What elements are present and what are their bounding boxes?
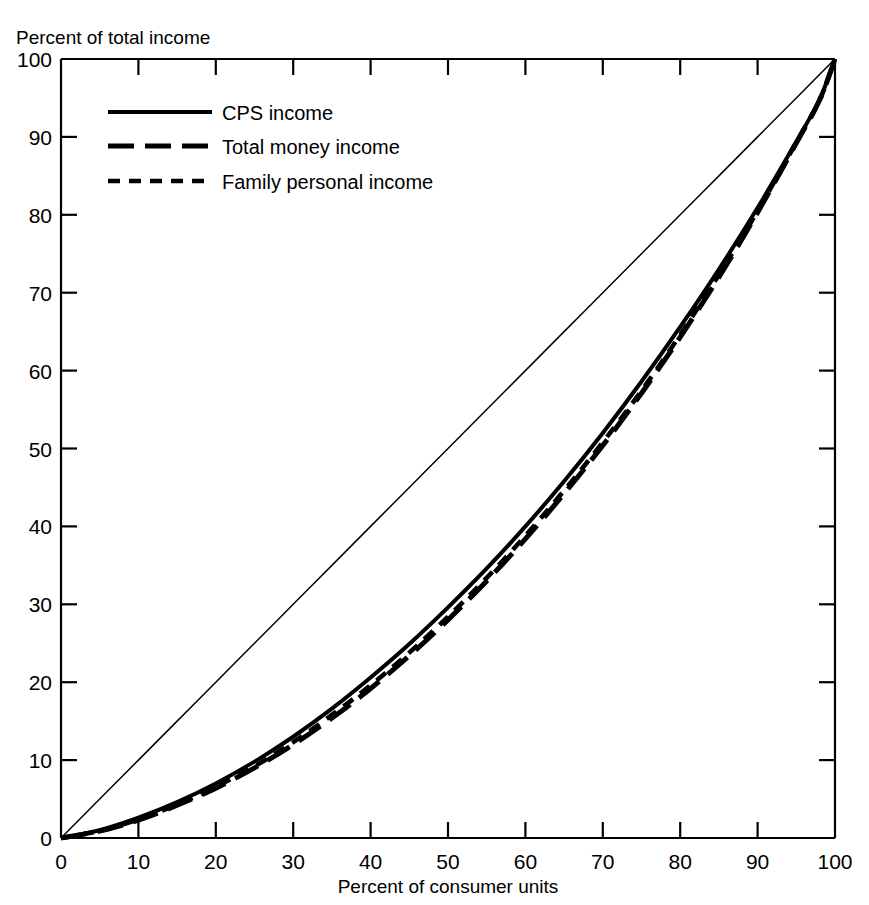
y-tick-label: 60	[29, 360, 52, 383]
legend-label-total-money-income: Total money income	[222, 136, 400, 158]
y-tick-label: 70	[29, 282, 52, 305]
x-tick-label: 50	[436, 850, 459, 873]
legend-label-cps-income: CPS income	[222, 102, 333, 124]
x-tick-label: 60	[514, 850, 537, 873]
y-tick-label: 10	[29, 749, 52, 772]
x-tick-label: 0	[55, 850, 67, 873]
y-tick-label: 80	[29, 204, 52, 227]
y-tick-label: 20	[29, 671, 52, 694]
x-axis-title: Percent of consumer units	[338, 876, 559, 897]
x-tick-label: 80	[669, 850, 692, 873]
y-tick-label: 40	[29, 515, 52, 538]
y-tick-label: 0	[40, 827, 52, 850]
x-tick-label: 90	[746, 850, 769, 873]
lorenz-curve-chart: Percent of total income 0102030405060708…	[0, 0, 869, 905]
legend-label-family-personal-income: Family personal income	[222, 171, 433, 193]
y-tick-label: 30	[29, 593, 52, 616]
x-tick-label: 40	[359, 850, 382, 873]
y-tick-label: 90	[29, 126, 52, 149]
x-tick-label: 20	[204, 850, 227, 873]
x-tick-label: 10	[127, 850, 150, 873]
y-tick-label: 50	[29, 438, 52, 461]
x-tick-label: 70	[591, 850, 614, 873]
x-tick-label: 100	[817, 850, 852, 873]
y-tick-label: 100	[17, 48, 52, 71]
x-tick-label: 30	[282, 850, 305, 873]
chart-page: Percent of total income 0102030405060708…	[0, 0, 869, 905]
y-axis-title: Percent of total income	[16, 27, 210, 48]
